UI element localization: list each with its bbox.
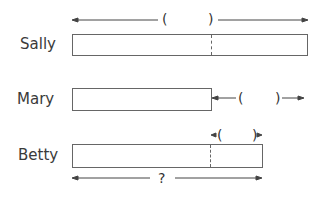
paren-close-betty: ) xyxy=(252,128,257,142)
label-sally: Sally xyxy=(20,35,56,53)
mary-difference-arrow xyxy=(212,96,304,100)
paren-close-mary: ) xyxy=(275,91,280,105)
bar-sally xyxy=(72,34,308,56)
paren-open-betty: ( xyxy=(217,128,222,142)
sally-span-arrow xyxy=(72,18,308,22)
paren-open-sally: ( xyxy=(162,12,167,26)
divider-betty xyxy=(210,145,211,167)
betty-total-arrow xyxy=(72,176,262,180)
bar-betty xyxy=(72,144,263,168)
bar-mary xyxy=(72,88,212,111)
label-mary: Mary xyxy=(17,90,54,108)
divider-sally xyxy=(211,35,212,55)
label-betty: Betty xyxy=(18,146,58,164)
question-mark: ? xyxy=(158,171,165,185)
paren-open-mary: ( xyxy=(238,91,243,105)
paren-close-sally: ) xyxy=(208,12,213,26)
